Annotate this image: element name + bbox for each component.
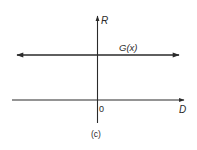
figure-caption: (c) bbox=[91, 129, 101, 139]
origin-label: 0 bbox=[99, 104, 104, 114]
diagram-canvas: R G(x) 0 D (c) bbox=[0, 0, 197, 150]
axis-label-d: D bbox=[179, 104, 186, 115]
curve-label-g-of-x: G(x) bbox=[119, 42, 137, 53]
axis-label-r: R bbox=[101, 15, 108, 26]
